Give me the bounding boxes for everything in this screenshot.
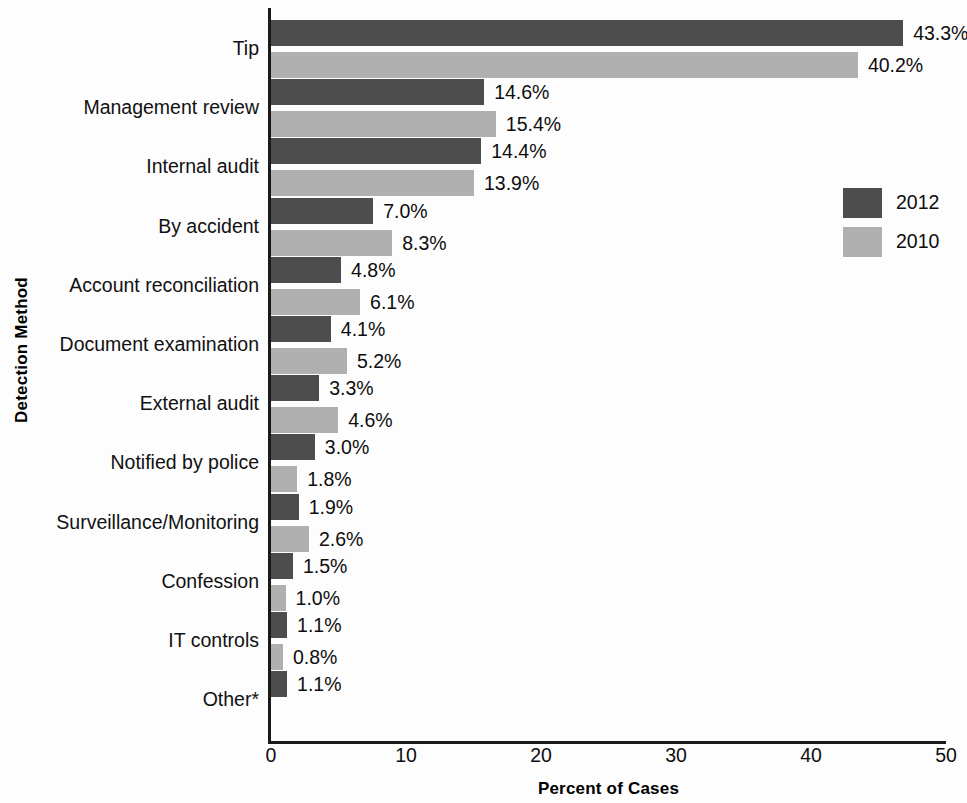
category-label: External audit: [0, 392, 259, 415]
bar-value-label: 3.3%: [329, 377, 373, 400]
bar-2010[interactable]: [271, 348, 347, 374]
bar-2010[interactable]: [271, 289, 360, 315]
x-tick-label: 50: [935, 744, 957, 767]
bar-value-label: 14.6%: [494, 81, 549, 104]
bar-value-label: 4.1%: [341, 318, 385, 341]
legend-swatch: [843, 188, 882, 218]
x-axis-title: Percent of Cases: [271, 779, 946, 799]
bar-row: 15.4%: [271, 111, 946, 137]
legend-item[interactable]: 2012: [843, 183, 967, 222]
bar-2010[interactable]: [271, 644, 283, 670]
bar-2012[interactable]: [271, 434, 315, 460]
bar-value-label: 1.8%: [307, 468, 351, 491]
bar-group: Surveillance/Monitoring1.9%2.6%: [271, 494, 946, 552]
bar-2010[interactable]: [271, 170, 474, 196]
bar-group: Account reconciliation4.8%6.1%: [271, 257, 946, 315]
category-label: Other*: [0, 688, 259, 711]
bar-value-label: 1.1%: [297, 673, 341, 696]
bar-group: Other*1.1%: [271, 671, 946, 729]
bar-value-label: 7.0%: [383, 199, 427, 222]
bar-row: 14.6%: [271, 79, 946, 105]
bar-value-label: 14.4%: [491, 140, 546, 163]
category-label: By accident: [0, 215, 259, 238]
bar-value-label: 15.4%: [506, 113, 561, 136]
bar-2010[interactable]: [271, 526, 309, 552]
x-tick-label: 10: [395, 744, 417, 767]
bar-value-label: 1.1%: [297, 614, 341, 637]
bar-value-label: 3.0%: [325, 436, 369, 459]
bar-2012[interactable]: [271, 612, 287, 638]
bar-2012[interactable]: [271, 20, 903, 46]
category-label: Management review: [0, 96, 259, 119]
bar-group: IT controls1.1%0.8%: [271, 612, 946, 670]
bar-2010[interactable]: [271, 585, 286, 611]
bar-2010[interactable]: [271, 111, 496, 137]
bar-row: 1.0%: [271, 585, 946, 611]
bar-row: 1.8%: [271, 466, 946, 492]
category-label: Notified by police: [0, 451, 259, 474]
bar-group: Notified by police3.0%1.8%: [271, 434, 946, 492]
legend: 20122010: [843, 183, 967, 261]
bar-value-label: 4.8%: [351, 258, 395, 281]
bar-row: 40.2%: [271, 52, 946, 78]
bar-row: 1.1%: [271, 671, 946, 697]
bar-2012[interactable]: [271, 494, 299, 520]
bar-value-label: 1.0%: [296, 586, 340, 609]
bar-2012[interactable]: [271, 553, 293, 579]
bar-row: 3.0%: [271, 434, 946, 460]
bar-group: Tip43.3%40.2%: [271, 20, 946, 78]
bar-2012[interactable]: [271, 257, 341, 283]
bar-row: 5.2%: [271, 348, 946, 374]
bar-chart: Detection Method Tip43.3%40.2%Management…: [0, 0, 967, 803]
bar-value-label: 8.3%: [402, 231, 446, 254]
bar-row: 43.3%: [271, 20, 946, 46]
bar-row: 3.3%: [271, 375, 946, 401]
bar-2012[interactable]: [271, 671, 287, 697]
bar-value-label: 0.8%: [293, 646, 337, 669]
category-label: Document examination: [0, 333, 259, 356]
bar-group: External audit3.3%4.6%: [271, 375, 946, 433]
bar-2010[interactable]: [271, 230, 392, 256]
bar-row: 1.1%: [271, 612, 946, 638]
bar-2012[interactable]: [271, 316, 331, 342]
bar-group: Confession1.5%1.0%: [271, 553, 946, 611]
bar-value-label: 1.9%: [309, 495, 353, 518]
bar-row: 0.8%: [271, 644, 946, 670]
bar-2010[interactable]: [271, 466, 297, 492]
bar-group: Management review14.6%15.4%: [271, 79, 946, 137]
bar-2010[interactable]: [271, 407, 338, 433]
bar-row: 1.5%: [271, 553, 946, 579]
category-label: IT controls: [0, 629, 259, 652]
category-label: Surveillance/Monitoring: [0, 511, 259, 534]
bar-value-label: 40.2%: [868, 54, 923, 77]
bar-row: [271, 703, 946, 729]
x-axis-ticks: 01020304050: [271, 744, 946, 774]
category-label: Tip: [0, 37, 259, 60]
bar-value-label: 43.3%: [913, 22, 967, 45]
x-tick-label: 30: [665, 744, 687, 767]
bar-2010[interactable]: [271, 52, 858, 78]
bar-row: 4.1%: [271, 316, 946, 342]
bar-value-label: 13.9%: [484, 172, 539, 195]
legend-item[interactable]: 2010: [843, 222, 967, 261]
bar-group: Document examination4.1%5.2%: [271, 316, 946, 374]
category-label: Account reconciliation: [0, 274, 259, 297]
x-tick-label: 0: [266, 744, 277, 767]
plot-area: Tip43.3%40.2%Management review14.6%15.4%…: [271, 8, 946, 744]
x-tick-label: 20: [530, 744, 552, 767]
category-label: Internal audit: [0, 155, 259, 178]
legend-label: 2010: [896, 230, 939, 253]
bar-row: 1.9%: [271, 494, 946, 520]
bar-value-label: 1.5%: [303, 554, 347, 577]
bar-2012[interactable]: [271, 138, 481, 164]
category-label: Confession: [0, 570, 259, 593]
bar-value-label: 5.2%: [357, 350, 401, 373]
bar-2012[interactable]: [271, 79, 484, 105]
bar-2012[interactable]: [271, 375, 319, 401]
bar-value-label: 2.6%: [319, 527, 363, 550]
bar-2012[interactable]: [271, 198, 373, 224]
legend-label: 2012: [896, 191, 939, 214]
bar-value-label: 4.6%: [348, 409, 392, 432]
bar-row: 4.6%: [271, 407, 946, 433]
bar-row: 2.6%: [271, 526, 946, 552]
